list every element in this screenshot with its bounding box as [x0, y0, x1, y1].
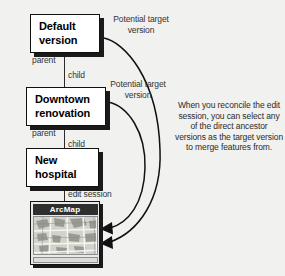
arcmap-map-canvas[interactable]: [33, 216, 98, 255]
potential-target-arrow-inner: [108, 102, 145, 228]
arrow-label-potential-target-2: Potential target version: [101, 79, 175, 100]
version-box-default[interactable]: Default version: [30, 14, 100, 53]
version-box-downtown-line2: renovation: [35, 107, 105, 121]
arrow-label-potential-target-1: Potential target version: [104, 14, 178, 35]
version-box-new-hospital-line2: hospital: [35, 168, 98, 182]
map-graphic: [34, 217, 98, 255]
connector-hospital-to-arcmap: [64, 187, 65, 201]
connector-downtown-to-hospital: [64, 126, 65, 148]
version-box-default-line1: Default: [39, 20, 99, 34]
version-box-downtown[interactable]: Downtown renovation: [26, 87, 106, 126]
version-box-default-line2: version: [39, 34, 99, 48]
potential-target-arrowhead-inner: [100, 222, 113, 235]
edge-label-parent-1: parent: [32, 55, 56, 65]
arcmap-statusbar: [33, 257, 98, 263]
diagram-canvas: Default version Downtown renovation New …: [0, 0, 285, 276]
version-box-new-hospital[interactable]: New hospital: [26, 148, 99, 187]
edge-label-child-2: child: [68, 139, 85, 149]
arcmap-titlebar: ArcMap: [33, 204, 98, 215]
arcmap-window[interactable]: ArcMap: [30, 201, 100, 265]
potential-target-arrowhead-outer: [100, 236, 113, 249]
edge-label-edit-session: edit session: [68, 189, 112, 199]
connector-default-to-downtown: [64, 53, 65, 87]
arcmap-title-label: ArcMap: [50, 205, 81, 214]
version-box-new-hospital-line1: New: [35, 154, 98, 168]
version-box-downtown-line1: Downtown: [35, 93, 105, 107]
explanatory-note: When you reconcile the edit session, you…: [174, 100, 284, 153]
edge-label-child-1: child: [68, 70, 85, 80]
edge-label-parent-2: parent: [32, 128, 56, 138]
